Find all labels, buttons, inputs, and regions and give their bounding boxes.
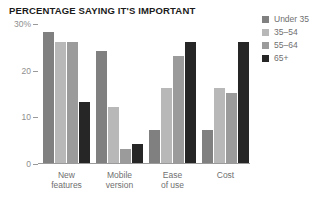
bar-chart-figure: PERCENTAGE SAYING IT'S IMPORTANT 30%2010… (0, 0, 328, 205)
y-tick-label: 20 (22, 66, 31, 76)
bar (132, 144, 143, 163)
bar (108, 107, 119, 163)
legend-item[interactable]: 55–64 (262, 40, 309, 50)
bar (214, 88, 225, 163)
bar (79, 102, 90, 163)
bar (238, 42, 249, 163)
bar (202, 130, 213, 163)
bar (96, 51, 107, 163)
legend-label: 55–64 (274, 40, 298, 50)
legend-swatch-icon (262, 29, 269, 36)
bar (67, 42, 78, 163)
bar (120, 149, 131, 163)
legend-label: 35–54 (274, 27, 298, 37)
y-tick-mark (33, 71, 38, 72)
page-title: PERCENTAGE SAYING IT'S IMPORTANT (9, 5, 195, 16)
x-axis-line (38, 163, 250, 164)
bar (226, 93, 237, 163)
legend-swatch-icon (262, 16, 269, 23)
y-tick-label: 30% (14, 19, 31, 29)
bar (161, 88, 172, 163)
bar (149, 130, 160, 163)
legend-swatch-icon (262, 55, 269, 62)
legend-item[interactable]: Under 35 (262, 14, 309, 24)
legend-label: Under 35 (274, 14, 309, 24)
y-axis-labels: 30%20100 (0, 24, 31, 164)
y-tick-mark (33, 24, 38, 25)
plot-area (38, 24, 250, 164)
bar (185, 42, 196, 163)
y-tick-mark (33, 164, 38, 165)
y-tick-mark (33, 117, 38, 118)
y-tick-label: 0 (26, 159, 31, 169)
y-tick-label: 10 (22, 112, 31, 122)
bar (55, 42, 66, 163)
x-tick-label: Cost (192, 170, 260, 180)
bar-group (43, 32, 90, 163)
bar-group (149, 42, 196, 163)
bar-group (96, 51, 143, 163)
bar-group (202, 42, 249, 163)
legend-swatch-icon (262, 42, 269, 49)
bar (173, 56, 184, 163)
legend-item[interactable]: 65+ (262, 53, 309, 63)
legend: Under 3535–5455–6465+ (262, 14, 309, 63)
bar (43, 32, 54, 163)
legend-label: 65+ (274, 53, 288, 63)
legend-item[interactable]: 35–54 (262, 27, 309, 37)
